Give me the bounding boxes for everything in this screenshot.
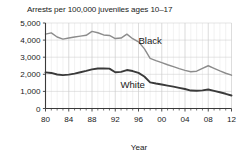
y-axis-tick-labels: 01,0002,0003,0004,0005,000 (20, 19, 41, 114)
series-label-black: Black (138, 35, 162, 46)
y-tick-label: 0 (36, 105, 41, 114)
x-tick-label: 08 (204, 115, 214, 124)
x-tick-label: 80 (41, 115, 51, 124)
chart-plot-area: 01,0002,0003,0004,0005,000 8084889296000… (0, 0, 244, 155)
y-tick-label: 4,000 (20, 36, 41, 45)
axis-ticks (43, 23, 232, 112)
y-tick-label: 2,000 (20, 70, 41, 79)
x-tick-label: 04 (180, 115, 190, 124)
x-tick-label: 84 (64, 115, 74, 124)
x-tick-label: 12 (227, 115, 237, 124)
x-axis-tick-labels: 808488929600040812 (41, 115, 237, 124)
series-label-white: White (120, 79, 145, 90)
y-tick-label: 3,000 (20, 53, 41, 62)
x-tick-label: 00 (157, 115, 167, 124)
y-tick-label: 5,000 (20, 19, 41, 28)
x-tick-label: 96 (134, 115, 144, 124)
chart-figure: Arrests per 100,000 juveniles ages 10–17… (0, 0, 244, 155)
x-tick-label: 88 (87, 115, 97, 124)
x-tick-label: 92 (111, 115, 121, 124)
y-tick-label: 1,000 (20, 87, 41, 96)
x-axis-title: Year (131, 143, 148, 152)
